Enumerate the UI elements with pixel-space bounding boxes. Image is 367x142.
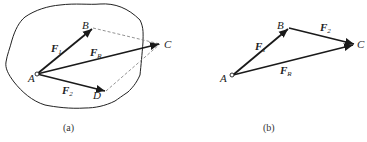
caption-b: (b) — [263, 122, 275, 134]
label-fr: FR — [279, 64, 292, 78]
label-a: A — [27, 72, 35, 84]
rigid-body-outline — [6, 4, 143, 108]
label-c: C — [164, 38, 172, 50]
label-a: A — [219, 72, 227, 84]
point-a-pin — [35, 72, 39, 76]
label-f2: F2 — [319, 21, 331, 35]
label-f1: F1 — [50, 42, 62, 56]
point-a-pin — [230, 73, 234, 77]
label-b: B — [277, 19, 284, 31]
label-fr: FR — [89, 46, 102, 60]
label-f1: F1 — [254, 40, 266, 54]
diagram-canvas: A B C D F1 FR F2 (a) A B C F1 F2 FR (b) — [0, 0, 367, 142]
label-f2: F2 — [61, 84, 73, 98]
dashed-bc — [93, 28, 160, 44]
label-d: D — [92, 89, 101, 101]
figure-b: A B C F1 F2 FR (b) — [219, 19, 365, 134]
label-b: B — [82, 19, 89, 31]
label-c: C — [357, 38, 365, 50]
figure-a: A B C D F1 FR F2 (a) — [6, 4, 172, 134]
caption-a: (a) — [63, 122, 74, 134]
